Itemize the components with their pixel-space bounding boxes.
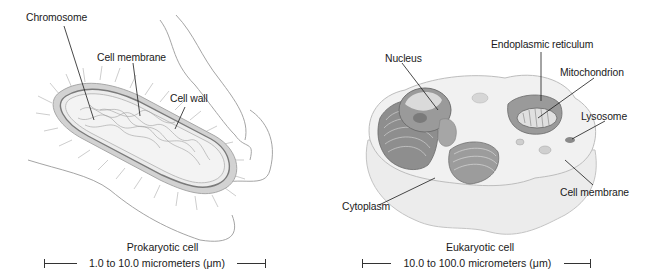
eukaryotic-title: Eukaryotic cell [434,241,526,253]
prokaryotic-title: Prokaryotic cell [114,241,211,253]
label-cell-membrane-eukaryotic: Cell membrane [560,186,629,198]
eukaryotic-cell-illustration [320,0,655,280]
eukaryotic-panel: Nucleus Endoplasmic reticulum Mitochondr… [320,0,655,280]
label-nucleus: Nucleus [385,52,422,64]
label-cell-wall: Cell wall [170,92,208,104]
label-cytoplasm: Cytoplasm [342,200,390,212]
prokaryotic-scale-text: 1.0 to 10.0 micrometers (μm) [83,257,230,269]
prokaryotic-cell-illustration [0,0,330,280]
prokaryotic-scale-bar: 1.0 to 10.0 micrometers (μm) [44,256,266,270]
eukaryotic-scale-text: 10.0 to 100.0 micrometers (μm) [398,257,557,269]
label-mitochondrion: Mitochondrion [560,66,624,78]
label-cell-membrane-prokaryotic: Cell membrane [97,51,166,63]
label-endoplasmic-reticulum: Endoplasmic reticulum [491,38,593,50]
label-chromosome: Chromosome [26,11,87,23]
label-lysosome: Lysosome [581,110,627,122]
prokaryotic-panel: Chromosome Cell membrane Cell wall Proka… [0,0,330,280]
eukaryotic-scale-bar: 10.0 to 100.0 micrometers (μm) [362,256,591,270]
